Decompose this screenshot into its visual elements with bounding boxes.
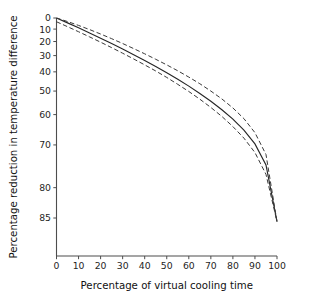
series-line-confidence-2 <box>57 22 278 222</box>
x-tick-label: 10 <box>73 260 85 271</box>
x-tick-label: 20 <box>95 260 107 271</box>
series-line-mean <box>57 18 278 222</box>
x-tick-label: 30 <box>117 260 129 271</box>
x-tick-label: 90 <box>249 260 261 271</box>
y-tick-label: 85 <box>39 212 51 223</box>
y-tick-label: 70 <box>39 139 51 150</box>
y-tick-label: 50 <box>39 85 51 96</box>
x-tick-label: 50 <box>161 260 173 271</box>
y-tick-label: 30 <box>39 50 51 61</box>
line-chart: 0102030405060708085010203040506070809010… <box>0 0 309 298</box>
x-tick-label: 80 <box>227 260 239 271</box>
x-tick-label: 100 <box>268 260 286 271</box>
y-tick-label: 40 <box>39 66 51 77</box>
x-tick-label: 40 <box>139 260 151 271</box>
y-tick-label: 80 <box>39 182 51 193</box>
y-tick-label: 20 <box>39 36 51 47</box>
x-tick-label: 0 <box>54 260 60 271</box>
chart-figure: 0102030405060708085010203040506070809010… <box>0 0 309 298</box>
y-tick-label: 10 <box>39 24 51 35</box>
x-tick-label: 60 <box>183 260 195 271</box>
x-axis-title: Percentage of virtual cooling time <box>81 280 253 291</box>
y-tick-label: 0 <box>45 12 51 23</box>
y-tick-label: 60 <box>39 109 51 120</box>
x-tick-label: 70 <box>205 260 217 271</box>
y-axis-title: Percentage reduction in temperature diff… <box>8 16 19 259</box>
series-line-confidence-1 <box>57 18 278 222</box>
